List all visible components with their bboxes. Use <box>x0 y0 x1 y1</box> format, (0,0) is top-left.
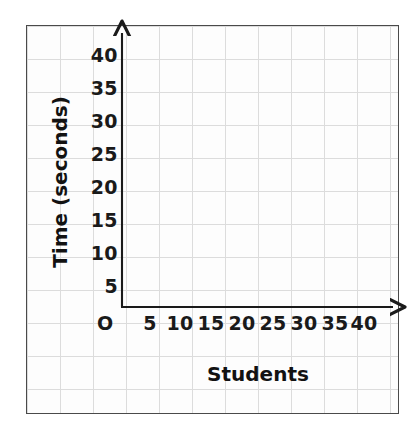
worksheet-graph: 40 35 30 25 20 15 10 5 O 5 10 15 20 25 3… <box>0 0 420 440</box>
y-tick-label: 10 <box>72 244 118 263</box>
y-tick-label: 25 <box>72 145 118 164</box>
x-axis-tick-labels: 5 10 15 20 25 30 35 40 <box>0 314 420 342</box>
y-axis-tick-labels: 40 35 30 25 20 15 10 5 <box>72 0 118 440</box>
y-tick-label: 20 <box>72 178 118 197</box>
x-axis-title: Students <box>158 364 358 384</box>
y-tick-label: 30 <box>72 112 118 131</box>
y-axis-title: Time (seconds) <box>50 82 70 282</box>
y-tick-label: 40 <box>72 46 118 65</box>
y-tick-label: 5 <box>72 277 118 296</box>
x-tick-label: 40 <box>344 314 384 333</box>
y-tick-label: 35 <box>72 79 118 98</box>
y-tick-label: 15 <box>72 211 118 230</box>
